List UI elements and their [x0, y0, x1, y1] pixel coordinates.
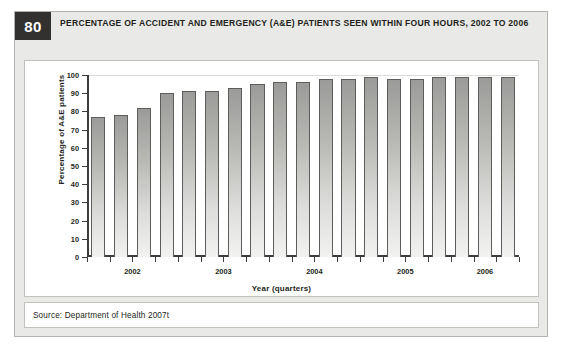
y-axis-tick — [82, 166, 87, 167]
bar — [387, 79, 401, 257]
y-axis-tick-label: 30 — [71, 198, 79, 207]
x-axis-tick — [519, 257, 520, 262]
x-axis-tick — [496, 257, 497, 262]
y-axis-tick-label: 20 — [71, 216, 79, 225]
bar — [228, 88, 242, 257]
x-axis-tick — [405, 257, 406, 262]
bar — [410, 79, 424, 257]
bar — [205, 91, 219, 257]
x-axis-group-label: 2005 — [397, 267, 413, 276]
x-axis-tick — [360, 257, 361, 262]
bar — [341, 79, 355, 257]
bar — [114, 115, 128, 257]
x-axis-tick — [292, 257, 293, 262]
bar — [182, 91, 196, 257]
bar — [364, 77, 378, 257]
x-axis-tick — [155, 257, 156, 262]
bar — [501, 77, 515, 257]
x-axis-tick — [246, 257, 247, 262]
x-axis-tick — [201, 257, 202, 262]
x-axis-tick — [269, 257, 270, 262]
y-axis-tick — [82, 202, 87, 203]
y-axis-title: Percentage of A&E patients — [57, 50, 66, 210]
x-axis-tick — [451, 257, 452, 262]
figure-number-badge: 80 — [15, 12, 51, 40]
bar — [160, 93, 174, 257]
x-axis-group-label: 2006 — [477, 267, 493, 276]
y-axis-tick — [82, 130, 87, 131]
figure-card: 80 PERCENTAGE OF ACCIDENT AND EMERGENCY … — [14, 11, 548, 337]
x-axis-tick — [223, 257, 224, 262]
y-axis-tick — [82, 75, 87, 76]
y-axis-tick-label: 100 — [67, 71, 79, 80]
x-axis-group-label: 2002 — [124, 267, 140, 276]
y-axis-tick-label: 40 — [71, 180, 79, 189]
bar — [137, 108, 151, 257]
x-axis-tick — [132, 257, 133, 262]
x-axis-tick — [314, 257, 315, 262]
y-axis-tick-label: 60 — [71, 143, 79, 152]
x-axis-tick — [87, 257, 88, 262]
bar — [250, 84, 264, 257]
y-axis-tick — [82, 184, 87, 185]
source-note-bar: Source: Department of Health 2007t — [24, 302, 539, 328]
bar — [455, 77, 469, 257]
bar — [319, 79, 333, 257]
y-axis-tick-label: 90 — [71, 89, 79, 98]
x-axis-tick — [337, 257, 338, 262]
x-axis-group-label: 2003 — [215, 267, 231, 276]
y-axis-tick-label: 50 — [71, 162, 79, 171]
x-axis-tick — [428, 257, 429, 262]
source-note: Source: Department of Health 2007t — [25, 311, 169, 320]
y-axis-tick-label: 0 — [75, 253, 79, 262]
y-axis-tick — [82, 111, 87, 112]
x-axis-tick — [383, 257, 384, 262]
chart-plot-frame: Percentage of A&E patients Year (quarter… — [24, 60, 539, 297]
y-axis-tick-label: 10 — [71, 234, 79, 243]
y-axis-tick — [82, 93, 87, 94]
page-title: PERCENTAGE OF ACCIDENT AND EMERGENCY (A&… — [60, 16, 533, 30]
y-axis-tick — [82, 148, 87, 149]
y-axis-tick — [82, 221, 87, 222]
x-axis-tick — [474, 257, 475, 262]
figure-header: 80 PERCENTAGE OF ACCIDENT AND EMERGENCY … — [15, 12, 547, 60]
chart-plot-area: 1009080706050403020100 20022003200420052… — [87, 75, 519, 257]
x-axis-tick — [110, 257, 111, 262]
bar — [273, 82, 287, 257]
x-axis-title: Year (quarters) — [25, 284, 538, 293]
y-axis-tick — [82, 239, 87, 240]
bar — [91, 117, 105, 257]
x-axis-group-label: 2004 — [306, 267, 322, 276]
bar — [432, 77, 446, 257]
bar — [296, 82, 310, 257]
x-axis-tick — [178, 257, 179, 262]
y-axis-line — [87, 75, 89, 257]
y-axis-tick-label: 70 — [71, 125, 79, 134]
y-axis-tick-label: 80 — [71, 107, 79, 116]
bar — [478, 77, 492, 257]
